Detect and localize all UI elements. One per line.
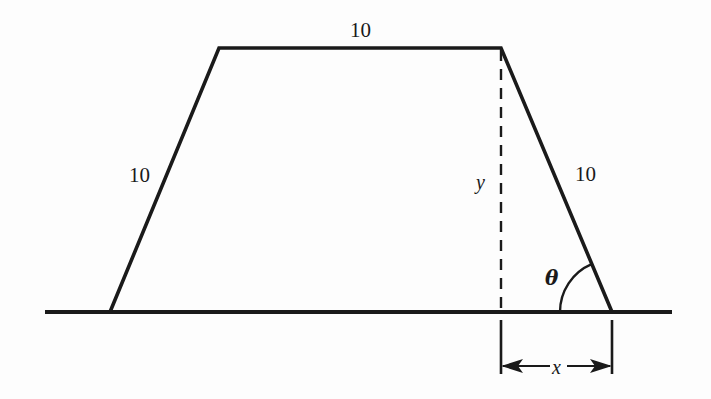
base-angle-variable-label: θ — [545, 268, 558, 288]
top-side-length-label: 10 — [350, 20, 371, 41]
diagram-canvas — [0, 0, 711, 399]
base-offset-variable-label: x — [552, 357, 561, 377]
trapezoid-outline — [110, 48, 612, 312]
height-variable-label: y — [476, 172, 485, 192]
geometry-figure: 10 10 10 y x θ — [0, 0, 711, 399]
base-angle-arc — [560, 264, 592, 312]
right-side-length-label: 10 — [575, 164, 596, 185]
left-side-length-label: 10 — [129, 165, 150, 186]
